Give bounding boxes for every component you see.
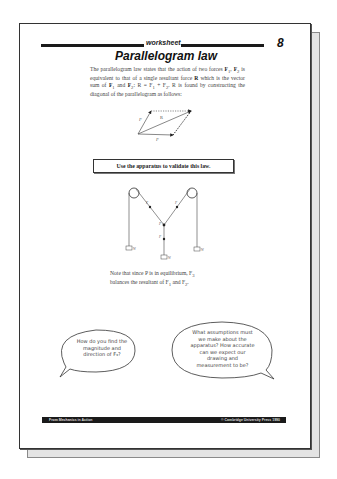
svg-text:F: F xyxy=(145,201,149,205)
svg-text:W: W xyxy=(168,256,171,260)
page-number: 8 xyxy=(277,36,284,50)
worksheet-label: worksheet xyxy=(146,39,180,46)
svg-text:R: R xyxy=(160,115,163,120)
svg-text:F: F xyxy=(138,117,142,122)
page-title: Parallelogram law xyxy=(20,49,312,63)
bubble-text-left: How do you find the magnitude and direct… xyxy=(76,338,128,358)
bubble-text-right: What assumptions must we make about the … xyxy=(190,329,255,368)
svg-text:W: W xyxy=(133,247,136,251)
parallelogram-diagram: F R F xyxy=(120,104,210,144)
svg-text:F: F xyxy=(155,137,159,142)
svg-text:F: F xyxy=(158,235,162,239)
header-rule-left xyxy=(41,44,144,47)
footer-source: From Mechanics in Action xyxy=(49,417,92,423)
svg-text:F: F xyxy=(174,201,178,205)
worksheet-page: worksheet 8 Parallelogram law The parall… xyxy=(19,23,311,449)
footer-bar: From Mechanics in Action © Cambridge Uni… xyxy=(42,417,286,423)
header-rule-right xyxy=(181,44,264,47)
svg-text:P: P xyxy=(158,222,162,226)
intro-paragraph: The parallelogram law states that the ac… xyxy=(90,66,245,98)
apparatus-diagram: F F P F W W W xyxy=(120,184,210,264)
footer-copyright: © Cambridge University Press 1990 xyxy=(221,417,280,423)
instruction-box: Use the apparatus to validate this law. xyxy=(93,159,234,173)
equilibrium-note: Note that since P is in equilibrium, F3 … xyxy=(110,270,230,288)
svg-text:W: W xyxy=(201,248,204,252)
